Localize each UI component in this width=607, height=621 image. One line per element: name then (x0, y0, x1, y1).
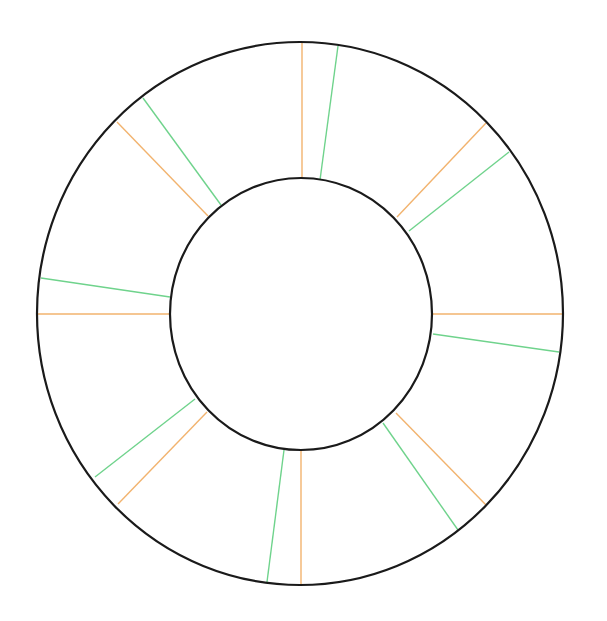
ring-diagram (0, 0, 607, 621)
inner-ring (170, 178, 432, 450)
